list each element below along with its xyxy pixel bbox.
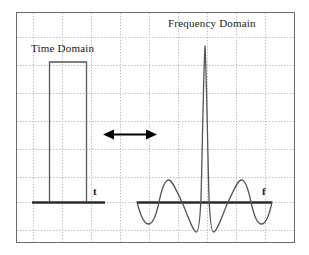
- figure-canvas: [0, 0, 309, 255]
- time-domain-title: Time Domain: [31, 43, 94, 54]
- fourier-transform-pair-figure: Time Domain Frequency Domain t f: [0, 0, 309, 255]
- frequency-domain-title: Frequency Domain: [168, 18, 256, 29]
- frequency-axis-label: f: [262, 186, 266, 197]
- time-axis-label: t: [93, 186, 97, 197]
